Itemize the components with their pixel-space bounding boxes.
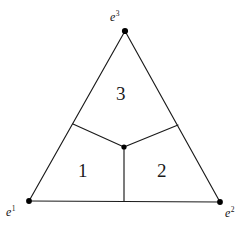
vertex-label-e3-base: e [110, 10, 115, 24]
triangle-partition-diagram: e3 e1 e2 3 1 2 [0, 0, 248, 230]
vertex-label-e3: e3 [110, 11, 119, 23]
region-label-1: 1 [78, 161, 88, 180]
vertex-dot-e2 [217, 199, 223, 205]
diagram-canvas [0, 0, 248, 230]
vertex-label-e2: e2 [225, 207, 234, 219]
region-label-2: 2 [157, 161, 167, 180]
vertex-label-e1-base: e [6, 205, 11, 219]
region-3-face [73, 31, 178, 147]
vertex-label-e1-superscript: 1 [12, 204, 16, 213]
vertex-label-e3-superscript: 3 [116, 9, 120, 18]
interior-junction-dot [121, 144, 126, 149]
vertex-label-e2-base: e [225, 206, 230, 220]
vertex-label-e2-superscript: 2 [231, 205, 235, 214]
vertex-dot-e3 [122, 28, 128, 34]
vertex-label-e1: e1 [6, 206, 15, 218]
vertex-dot-e1 [26, 198, 32, 204]
region-label-3: 3 [116, 84, 126, 103]
